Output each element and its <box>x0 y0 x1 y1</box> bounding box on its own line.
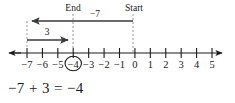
jump-label-negative-seven: −7 <box>90 9 100 19</box>
marker-label-end: End <box>65 3 81 13</box>
tick-label: 4 <box>194 59 200 70</box>
tick-label: 0 <box>132 59 137 70</box>
jump-label-plus-three: 3 <box>45 27 50 37</box>
tick-label: −7 <box>21 59 32 70</box>
tick-label-group: −7−6−5−4−3−2−1012345 <box>21 59 214 70</box>
marker-label-start: Start <box>125 3 143 13</box>
tick-label: 3 <box>179 59 184 70</box>
tick-label: −1 <box>114 59 125 70</box>
tick-label: 5 <box>209 59 214 70</box>
tick-label: 1 <box>148 59 153 70</box>
tick-label: 2 <box>163 59 168 70</box>
tick-label: −5 <box>52 59 63 70</box>
number-line-canvas: −7−6−5−4−3−2−1012345 −7 3 End Start −7 +… <box>0 0 235 103</box>
number-line-figure: −7−6−5−4−3−2−1012345 −7 3 End Start −7 +… <box>0 0 235 103</box>
tick-label: −6 <box>37 59 48 70</box>
tick-label: −2 <box>98 59 109 70</box>
tick-label: −4 <box>68 59 80 70</box>
tick-label: −3 <box>83 59 94 70</box>
equation-text: −7 + 3 = −4 <box>8 80 84 96</box>
